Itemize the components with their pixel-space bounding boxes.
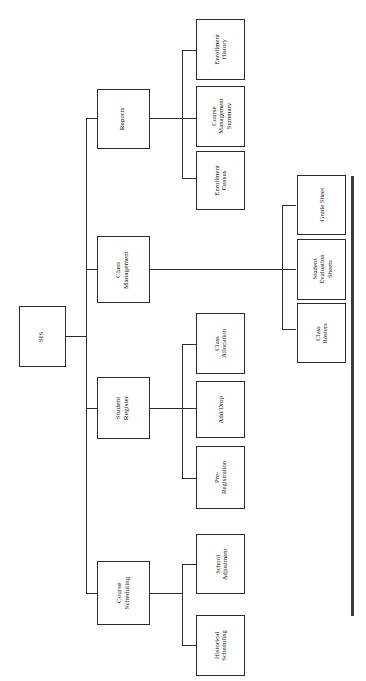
node-label: School Adjustment [213,548,228,580]
node-label: Class Allocation [213,329,228,358]
node-grade-sheet[interactable]: Grade Sheet [297,175,346,235]
node-label: Add/Drop [217,396,224,424]
edge-student-register-add-drop [182,408,196,409]
edge-class-mgmt-stem [150,269,282,270]
edge-reports-bus [182,50,183,178]
edge-reports-enrollment-history [182,50,196,51]
edge-reports-course-summary [182,118,196,119]
edge-class-mgmt-class-rosters [282,329,296,330]
edge-class-mgmt-bus [282,205,283,329]
node-reports[interactable]: Reports [97,89,150,149]
edge-course-scheduling-bus [182,564,183,645]
node-label: Class Rosters [314,323,329,343]
diagram-canvas: SIS Reports Class Management Student Reg… [0,0,366,681]
node-label: SIS [39,331,47,342]
node-pre-registration[interactable]: Pre- Registration [196,446,245,509]
node-label: Pre- Registration [213,461,228,494]
edge-class-mgmt-grade-sheet [282,205,296,206]
edge-course-scheduling-stem [150,593,182,594]
node-label: Course Scheduling [116,577,132,610]
node-course-management-summary[interactable]: Course Management Summary [196,86,245,147]
edge-student-register-bus [182,344,183,478]
edge-sis-trunk [66,336,86,337]
edge-student-register-stem [150,408,182,409]
edge-trunk-student-register [86,408,97,409]
node-label: Class Management [116,250,132,288]
edge-trunk-main [86,118,87,593]
edge-course-scheduling-school-adjustment [182,564,196,565]
node-class-allocation[interactable]: Class Allocation [196,313,245,374]
node-school-adjustment[interactable]: School Adjustment [196,534,245,594]
node-label: Enrollment History [213,34,228,65]
node-label: Student Register [116,396,132,420]
node-label: Student Evaluation Sheets [310,255,332,285]
node-student-register[interactable]: Student Register [97,377,150,439]
node-historical-scheduling[interactable]: Historical Scheduling [196,615,245,676]
edge-reports-enrollment-census [182,178,196,179]
node-enrollment-census[interactable]: Enrollment Census [196,151,245,210]
edge-reports-stem [150,118,182,119]
node-class-rosters[interactable]: Class Rosters [297,303,346,363]
node-label: Historical Scheduling [213,630,228,661]
edge-student-register-class-allocation [182,344,196,345]
edge-student-register-pre-registration [182,478,196,479]
node-label: Course Management Summary [209,99,231,134]
edge-course-scheduling-historical-scheduling [182,645,196,646]
edge-trunk-course-scheduling [86,593,97,594]
node-label: Reports [120,108,128,131]
page-margin-rule [351,176,354,616]
edge-trunk-class-mgmt [86,269,97,270]
node-label: Grade Sheet [318,188,325,222]
edge-trunk-reports [86,118,97,119]
node-sis[interactable]: SIS [19,306,66,367]
node-class-management[interactable]: Class Management [97,236,150,303]
node-student-evaluation-sheets[interactable]: Student Evaluation Sheets [297,239,346,300]
node-label: Enrollment Census [213,165,228,196]
node-course-scheduling[interactable]: Course Scheduling [97,561,150,625]
edge-class-mgmt-student-eval [282,269,296,270]
node-enrollment-history[interactable]: Enrollment History [196,19,245,80]
node-add-drop[interactable]: Add/Drop [196,381,245,438]
